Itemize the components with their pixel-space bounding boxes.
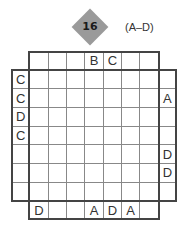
- grid-cell[interactable]: [48, 70, 67, 90]
- clue-left: C: [11, 70, 30, 90]
- grid-cell[interactable]: [48, 88, 67, 108]
- grid-cell[interactable]: [84, 163, 103, 183]
- grid-cell[interactable]: [48, 182, 67, 202]
- grid-cell[interactable]: [66, 126, 85, 146]
- grid-cell[interactable]: [66, 107, 85, 127]
- grid-cell[interactable]: [84, 70, 103, 90]
- clue-bottom: D: [103, 200, 122, 220]
- clue-right: A: [158, 88, 177, 108]
- grid-cell[interactable]: [48, 107, 67, 127]
- clue-left: D: [11, 107, 30, 127]
- clue-top: [29, 51, 48, 71]
- clue-right: D: [158, 163, 177, 183]
- grid-cell[interactable]: [84, 144, 103, 164]
- clue-bottom: A: [121, 200, 140, 220]
- grid-cell[interactable]: [121, 70, 140, 90]
- clue-right: [158, 126, 177, 146]
- grid-cell[interactable]: [66, 70, 85, 90]
- clue-left: [11, 163, 30, 183]
- grid-cell[interactable]: [29, 163, 48, 183]
- grid-cell[interactable]: [84, 107, 103, 127]
- clue-bottom: A: [84, 200, 103, 220]
- grid-cell[interactable]: [48, 126, 67, 146]
- grid-cell[interactable]: [103, 70, 122, 90]
- grid-cell[interactable]: [139, 126, 158, 146]
- grid-cell[interactable]: [139, 107, 158, 127]
- grid-cell[interactable]: [66, 163, 85, 183]
- puzzle-grid: DCCADBACCDDAD: [11, 51, 176, 219]
- clue-top: B: [84, 51, 103, 71]
- grid-cell[interactable]: [29, 107, 48, 127]
- grid-cell[interactable]: [139, 163, 158, 183]
- grid-cell[interactable]: [66, 88, 85, 108]
- clue-left: C: [11, 88, 30, 108]
- grid-cell[interactable]: [84, 182, 103, 202]
- letter-range: (A–D): [125, 21, 154, 33]
- clue-right: [158, 107, 177, 127]
- grid-cell[interactable]: [139, 182, 158, 202]
- grid-cell[interactable]: [121, 107, 140, 127]
- grid-cell[interactable]: [139, 70, 158, 90]
- grid-cell[interactable]: [103, 163, 122, 183]
- grid-cell[interactable]: [121, 182, 140, 202]
- clue-bottom: [48, 200, 67, 220]
- clue-right: D: [158, 144, 177, 164]
- grid-cell[interactable]: [29, 126, 48, 146]
- grid-cell[interactable]: [139, 144, 158, 164]
- grid-cell[interactable]: [103, 88, 122, 108]
- grid-cell[interactable]: [29, 182, 48, 202]
- grid-cell[interactable]: [84, 88, 103, 108]
- grid-cell[interactable]: [48, 144, 67, 164]
- clue-top: [66, 51, 85, 71]
- clue-right: [158, 182, 177, 202]
- clue-bottom: [66, 200, 85, 220]
- puzzle-number: 16: [74, 20, 106, 33]
- grid-cell[interactable]: [29, 144, 48, 164]
- grid-cell[interactable]: [48, 163, 67, 183]
- grid-cell[interactable]: [103, 182, 122, 202]
- clue-top: [48, 51, 67, 71]
- clue-left: [11, 182, 30, 202]
- grid-cell[interactable]: [84, 126, 103, 146]
- clue-top: [139, 51, 158, 71]
- grid-cell[interactable]: [121, 126, 140, 146]
- grid-cell[interactable]: [66, 182, 85, 202]
- clue-top: [121, 51, 140, 71]
- grid-cell[interactable]: [121, 163, 140, 183]
- grid-cell[interactable]: [121, 144, 140, 164]
- grid-cell[interactable]: [103, 126, 122, 146]
- clue-left: [11, 144, 30, 164]
- grid-cell[interactable]: [29, 88, 48, 108]
- grid-cell[interactable]: [29, 70, 48, 90]
- grid-cell[interactable]: [121, 88, 140, 108]
- grid-cell[interactable]: [66, 144, 85, 164]
- grid-cell[interactable]: [139, 88, 158, 108]
- grid-cell[interactable]: [103, 107, 122, 127]
- grid-cell[interactable]: [103, 144, 122, 164]
- clue-bottom: D: [29, 200, 48, 220]
- clue-top: C: [103, 51, 122, 71]
- clue-bottom: [139, 200, 158, 220]
- clue-left: C: [11, 126, 30, 146]
- clue-right: [158, 70, 177, 90]
